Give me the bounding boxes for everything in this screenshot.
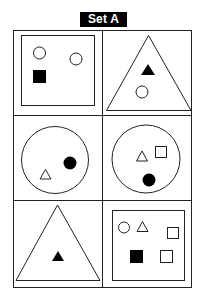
- filled-circle-icon: [64, 157, 77, 170]
- outline-square-icon: [161, 251, 173, 263]
- outline-circle-icon: [119, 222, 130, 233]
- cell-row2-col2: [112, 125, 180, 193]
- filled-triangle-icon: [52, 251, 64, 261]
- filled-square-icon: [33, 70, 46, 83]
- outline-circle-icon: [136, 86, 148, 98]
- filled-square-icon: [130, 250, 143, 263]
- outline-triangle-icon: [137, 151, 148, 161]
- outline-circle-icon: [70, 53, 82, 65]
- outline-circle-icon: [34, 47, 46, 59]
- filled-triangle-icon: [141, 64, 155, 75]
- filled-circle-icon: [143, 174, 156, 187]
- cell-row2-col1: [22, 127, 89, 194]
- cell-row3-col1: [16, 205, 100, 281]
- container-square: [22, 36, 95, 106]
- set-diagram: [0, 0, 203, 302]
- outline-triangle-icon: [40, 170, 51, 180]
- container-circle: [22, 127, 89, 194]
- outline-square-icon: [168, 228, 179, 239]
- container-triangle: [16, 205, 100, 281]
- grid-frame: [14, 31, 192, 288]
- cell-row1-col2: [107, 36, 192, 111]
- container-square: [113, 211, 185, 281]
- cell-row3-col2: [113, 211, 185, 281]
- cell-row1-col1: [22, 36, 95, 106]
- outline-triangle-icon: [137, 222, 148, 232]
- outline-square-icon: [156, 147, 167, 158]
